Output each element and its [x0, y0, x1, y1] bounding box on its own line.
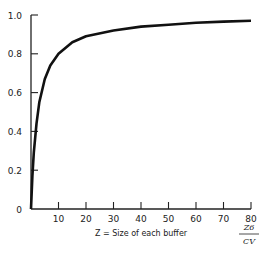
chart: 00.20.40.60.81.01020304050607080 Z = Siz…	[0, 0, 269, 253]
x-axis-label: Z = Size of each buffer	[95, 229, 188, 238]
y-tick-label: 1.0	[8, 11, 23, 21]
y-tick-label: 0.4	[8, 127, 23, 137]
x-axis-unit-denominator: CV	[243, 237, 256, 246]
y-tick-label: 0.2	[8, 166, 22, 176]
x-axis-unit-numerator: Z6	[243, 223, 255, 232]
data-curve	[31, 21, 251, 209]
y-tick-label: 0.6	[8, 88, 23, 98]
x-tick-label: 50	[163, 214, 175, 224]
y-tick-label: 0.8	[8, 49, 23, 59]
x-tick-label: 40	[135, 214, 147, 224]
x-tick-label: 70	[218, 214, 230, 224]
axes	[31, 15, 251, 209]
x-tick-label: 60	[190, 214, 202, 224]
ticks: 00.20.40.60.81.01020304050607080	[8, 11, 257, 225]
y-tick-label: 0	[16, 205, 22, 215]
x-tick-label: 20	[80, 214, 92, 224]
x-tick-label: 30	[108, 214, 120, 224]
x-tick-label: 10	[53, 214, 65, 224]
